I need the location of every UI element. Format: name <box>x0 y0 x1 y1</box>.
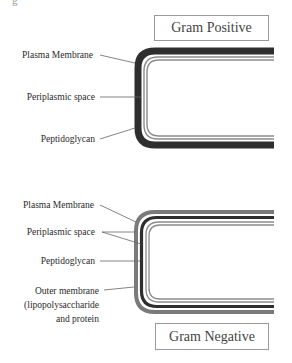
gp-peptidoglycan-layer <box>138 51 274 145</box>
gn-peptidoglycan-layer <box>142 218 275 307</box>
gn-leader-outer-membrane <box>104 287 134 290</box>
gn-plasma-membrane-inner <box>149 225 274 299</box>
gram-positive-wall <box>138 51 274 145</box>
gn-leader-plasma-membrane <box>100 205 136 222</box>
cell-wall-diagram <box>0 0 292 363</box>
gn-outer-membrane-layer <box>136 212 274 312</box>
gram-negative-wall <box>136 212 274 312</box>
gp-plasma-membrane-outer <box>144 57 274 139</box>
gp-leader-peptidoglycan <box>100 128 135 139</box>
gp-plasma-membrane-inner <box>147 60 274 136</box>
gn-plasma-membrane-outer <box>146 222 274 302</box>
gp-leader-plasma-membrane <box>100 55 135 63</box>
